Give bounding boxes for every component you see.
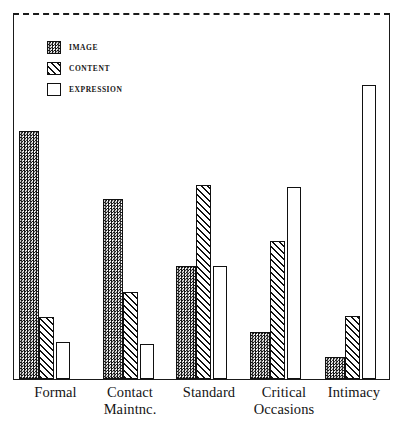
legend-item-content: CONTENT: [47, 59, 122, 77]
legend-label-image: IMAGE: [69, 43, 98, 52]
legend-swatch-content: [47, 62, 61, 75]
bar-formal-content: [39, 317, 54, 379]
x-axis-label-line: Maintnc.: [85, 401, 175, 418]
bar-critical-occasions-content: [270, 241, 285, 379]
bar-standard-expression: [213, 266, 227, 379]
legend-item-expression: EXPRESSION: [47, 80, 122, 98]
bar-intimacy-content: [345, 316, 360, 379]
bar-contact-maintnc-expression: [140, 344, 154, 379]
x-axis-label-intimacy: Intimacy: [312, 384, 396, 401]
bar-formal-expression: [56, 342, 70, 379]
bar-intimacy-image: [325, 357, 345, 379]
x-axis-label-line: Intimacy: [312, 384, 396, 401]
x-axis-label-line: Occasions: [238, 401, 330, 418]
legend-item-image: IMAGE: [47, 38, 122, 56]
bar-standard-image: [176, 266, 196, 379]
bar-contact-maintnc-image: [103, 199, 123, 379]
bar-critical-occasions-image: [250, 332, 270, 379]
chart-legend: IMAGECONTENTEXPRESSION: [47, 38, 122, 101]
x-axis-label-line: Contact: [85, 384, 175, 401]
legend-label-content: CONTENT: [69, 64, 110, 73]
bar-contact-maintnc-content: [123, 292, 138, 379]
bar-intimacy-expression: [362, 85, 376, 379]
bar-chart-figure: IMAGECONTENTEXPRESSION FormalContactMain…: [0, 0, 401, 446]
legend-label-expression: EXPRESSION: [69, 85, 122, 94]
legend-swatch-expression: [47, 83, 61, 96]
bar-standard-content: [196, 185, 211, 379]
bar-critical-occasions-expression: [287, 187, 301, 379]
x-axis-label-contact-maintnc: ContactMaintnc.: [85, 384, 175, 418]
legend-swatch-image: [47, 41, 61, 54]
bar-formal-image: [19, 131, 39, 379]
